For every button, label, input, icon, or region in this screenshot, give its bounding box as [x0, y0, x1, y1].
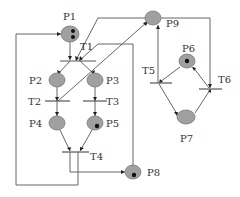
token-icon: [71, 35, 75, 39]
arrowhead-icon: [79, 56, 83, 61]
arc-p6-t5: [160, 67, 180, 82]
token-icon: [95, 124, 99, 128]
arc-p7-t6: [195, 90, 210, 113]
arc-t5-p7: [159, 84, 177, 114]
place-p9: [145, 11, 161, 25]
place-p2: [49, 73, 65, 87]
label-p5: P5: [106, 118, 119, 129]
place-p7: [177, 110, 195, 124]
label-p1: P1: [63, 11, 76, 22]
token-icon: [185, 59, 189, 63]
token-icon: [132, 173, 136, 177]
arrowhead-icon: [93, 112, 97, 116]
petri-net-diagram: P1 P2 P3 P4 P5 P6 P7 P8 P9 T1 T2 T3 T4 T…: [0, 0, 240, 197]
arc-t6-p6: [193, 67, 209, 88]
labels: P1 P2 P3 P4 P5 P6 P7 P8 P9 T1 T2 T3 T4 T…: [28, 11, 231, 178]
label-p7: P7: [180, 133, 193, 144]
label-p6: P6: [182, 43, 195, 54]
arc-t1-p2: [59, 61, 70, 73]
arrowhead-icon: [156, 25, 160, 29]
arrowhead-icon: [55, 112, 59, 116]
place-p1: [61, 26, 79, 42]
places: [49, 11, 195, 179]
place-p5: [87, 116, 103, 130]
arrowhead-icon: [68, 56, 72, 60]
label-t5: T5: [142, 65, 155, 76]
place-p4: [49, 116, 65, 130]
label-t4: T4: [90, 151, 103, 162]
arrowhead-icon: [80, 147, 84, 151]
label-p2: P2: [29, 75, 42, 86]
label-t2: T2: [28, 96, 41, 107]
label-p3: P3: [106, 75, 119, 86]
arrowhead-icon: [57, 32, 61, 36]
label-p8: P8: [147, 167, 160, 178]
arrowhead-icon: [67, 147, 71, 151]
label-p4: P4: [29, 118, 42, 129]
place-p3: [87, 73, 103, 87]
arrowhead-icon: [75, 56, 79, 61]
token-icon: [71, 29, 75, 33]
label-t3: T3: [106, 96, 119, 107]
label-p9: P9: [166, 18, 179, 29]
label-t6: T6: [218, 74, 231, 85]
arrowhead-icon: [121, 170, 125, 174]
label-t1: T1: [80, 41, 93, 52]
